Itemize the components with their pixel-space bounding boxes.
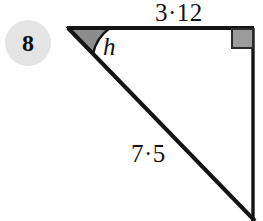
triangle-hypotenuse <box>68 28 255 221</box>
right-angle-marker-icon <box>232 29 253 48</box>
geometry-figure: 3·12 7·5 h 8 <box>0 0 263 221</box>
angle-label-h: h <box>103 34 116 59</box>
hypotenuse-length-label: 7·5 <box>131 141 166 166</box>
top-side-length-label: 3·12 <box>155 0 203 25</box>
exercise-number-text: 8 <box>22 31 34 55</box>
exercise-number-badge: 8 <box>5 20 51 66</box>
